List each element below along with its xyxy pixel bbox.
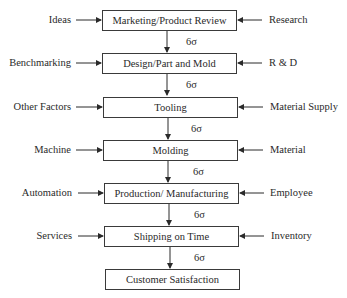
step-marketing-product-review: Marketing/Product Review <box>102 10 237 31</box>
sigma-label: 6σ <box>191 123 202 135</box>
step-tooling: Tooling <box>103 97 238 118</box>
sigma-label: 6σ <box>194 209 205 221</box>
sigma-label: 6σ <box>193 166 204 178</box>
step-customer-satisfaction: Customer Satisfaction <box>105 269 240 290</box>
input-automation: Automation <box>22 186 72 200</box>
step-shipping-on-time: Shipping on Time <box>104 226 239 247</box>
sigma-label: 6σ <box>186 36 197 48</box>
input-material-supply: Material Supply <box>270 100 338 114</box>
input-research: Research <box>269 13 307 27</box>
step-molding: Molding <box>103 140 238 161</box>
sigma-label: 6σ <box>194 252 205 264</box>
input-machine: Machine <box>34 143 71 157</box>
input-other-factors: Other Factors <box>14 100 71 114</box>
input-ideas: Ideas <box>49 13 71 27</box>
input-inventory: Inventory <box>271 229 312 243</box>
input-employee: Employee <box>270 186 313 200</box>
step-production-manufacturing: Production/ Manufacturing <box>104 183 239 204</box>
step-design-part-and-mold: Design/Part and Mold <box>102 53 237 74</box>
input-benchmarking: Benchmarking <box>9 56 71 70</box>
input-r-and-d: R & D <box>269 56 297 70</box>
input-material: Material <box>270 143 306 157</box>
sigma-label: 6σ <box>186 79 197 91</box>
input-services: Services <box>36 229 72 243</box>
